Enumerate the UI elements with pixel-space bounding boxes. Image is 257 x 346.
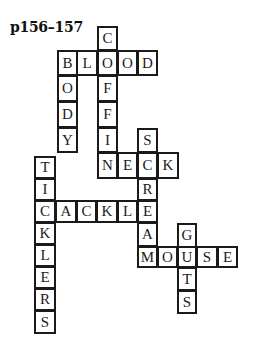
crossword-cell: T <box>34 156 56 179</box>
crossword-cell: E <box>217 246 238 268</box>
crossword-cell: K <box>34 222 56 245</box>
crossword-cell: D <box>57 101 78 128</box>
crossword-cell: I <box>97 127 118 153</box>
crossword-cell: L <box>117 200 138 223</box>
crossword-cell: E <box>117 152 138 179</box>
crossword-cell: C <box>137 152 158 179</box>
crossword-cell: L <box>76 50 98 76</box>
crossword-cell: N <box>97 152 118 179</box>
crossword-cell: R <box>34 288 56 311</box>
crossword-cell: F <box>97 75 118 102</box>
crossword-cell: M <box>137 246 158 268</box>
crossword-cell: O <box>117 50 138 76</box>
crossword-cell: Y <box>57 127 78 153</box>
crossword-cell: G <box>177 223 197 248</box>
crossword-cell: B <box>57 50 78 76</box>
crossword-cell: E <box>34 266 56 289</box>
crossword-cell: K <box>96 200 118 223</box>
crossword-cell: U <box>177 246 197 268</box>
crossword-cell: L <box>34 244 56 267</box>
crossword-cell: R <box>137 178 158 201</box>
crossword-cell: C <box>97 26 118 51</box>
crossword-cell: S <box>137 128 158 153</box>
crossword-cell: S <box>196 246 218 268</box>
crossword-cell: O <box>97 50 118 76</box>
crossword-cell: S <box>177 290 197 314</box>
crossword-grid: CBLOODOFDFYISNECKTIRCACKLEKAGLMOUSEETRSS <box>0 0 257 346</box>
crossword-cell: T <box>177 267 197 291</box>
crossword-cell: O <box>57 75 78 102</box>
crossword-cell: K <box>157 152 179 179</box>
crossword-cell: C <box>76 200 97 223</box>
crossword-cell: F <box>97 101 118 128</box>
crossword-cell: S <box>34 310 56 334</box>
crossword-cell: C <box>34 200 56 223</box>
crossword-cell: I <box>34 178 56 201</box>
crossword-cell: D <box>137 50 158 76</box>
crossword-cell: A <box>55 200 77 223</box>
crossword-cell: A <box>137 222 158 247</box>
crossword-cell: E <box>137 200 158 223</box>
crossword-cell: O <box>157 246 178 268</box>
